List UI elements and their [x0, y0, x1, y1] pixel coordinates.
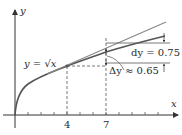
tick-label-7: 7	[103, 120, 109, 130]
y-axis-label: y	[20, 6, 26, 16]
delta-y-label: Δy ≈ 0.65	[109, 66, 159, 76]
tick-label-4: 4	[64, 120, 70, 130]
differential-diagram: y x y = √x 4 7 dy = 0.75 Δy ≈ 0.65	[0, 0, 182, 135]
dy-label: dy = 0.75	[131, 48, 180, 58]
function-label: y = √x	[24, 59, 56, 69]
x-axis-label: x	[171, 99, 177, 109]
